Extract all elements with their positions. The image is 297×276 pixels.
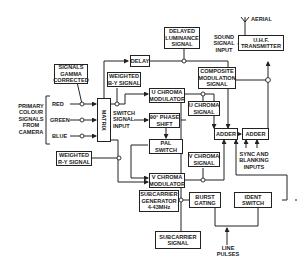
delay-box: DELAY [130,55,150,67]
pal-switch-box: PAL SWITCH [149,139,183,154]
label-line: SIGNAL [113,116,135,122]
label-line: PULSES [216,251,240,257]
u-chroma-signal-box: U CHROMA SIGNAL [188,101,220,116]
label-line: ADDER [246,131,266,137]
label-line: MODULATOR [149,181,185,187]
label-line: R-Y SIGNAL [58,159,90,165]
label-line: CAMERA [14,129,48,135]
label-line: SWITCH [242,200,264,206]
label-line: DELAY [131,58,149,64]
label-line: SWITCH [155,147,177,153]
green-label: GREEN [50,117,70,123]
label-line: MATRIX [101,109,107,130]
label-line: TRANSMITTER [241,43,281,49]
signals-gamma-corrected-box: SIGNALS GAMMA CORRECTED [54,64,88,84]
primary-colour-label: PRIMARY COLOUR SIGNALS FROM CAMERA [14,103,48,135]
burst-gating-box: BURST GATING [189,192,221,208]
label-line: INPUT [209,47,239,53]
label-line: SHIFT [156,121,172,127]
sound-signal-input-label: SOUND SIGNAL INPUT [209,34,239,53]
red-label: RED [52,101,64,107]
u-chroma-modulator-box: U CHROMA MODULATOR [149,88,185,103]
label-line: INPUTS [238,164,270,170]
matrix-box: MATRIX [97,98,111,142]
adder-1-box: ADDER [214,128,238,140]
label-line: BLANKING [238,157,270,163]
label-line: SIGNAL [209,40,239,46]
weighted-b-y-box: WEIGHTED B-Y SIGNAL [107,72,141,87]
label-line: SIGNAL [193,160,214,166]
subcarrier-generator-box: SUBCARRIER GENERATOR 4·43MHz [139,190,179,212]
blue-label: BLUE [52,133,67,139]
sync-blanking-label: SYNC AND BLANKING INPUTS [238,151,270,170]
label-line: SIGNAL [171,41,192,47]
label-line: GATING [194,200,215,206]
label-line: SIGNAL [167,240,188,246]
v-chroma-modulator-box: V CHROMA MODULATOR [149,173,185,188]
ident-switch-box: IDENT SWITCH [234,192,272,208]
switch-signal-input-label: SWITCH SIGNAL INPUT [113,110,135,129]
adder-2-box: ADDER [242,128,269,140]
aerial-label: AERIAL [251,16,272,22]
label-line: SIGNAL [193,109,214,115]
label-line: SIGNAL [206,81,227,87]
line-pulses-label: LINE PULSES [216,245,240,258]
label-line: CORRECTED [53,77,88,83]
delayed-luminance-box: DELAYED LUMINANCE SIGNAL [164,27,200,49]
label-line: B-Y SIGNAL [108,80,140,86]
label-line: 4·43MHz [148,204,171,210]
weighted-r-y-box: WEIGHTED R-Y SIGNAL [56,151,92,166]
subcarrier-signal-box: SUBCARRIER SIGNAL [155,231,201,249]
v-chroma-signal-box: V CHROMA SIGNAL [188,152,220,167]
label-line: ADDER [216,131,236,137]
composite-modulation-box: COMPOSITE MODULATION SIGNAL [198,67,236,89]
phase-shift-box: 90° PHASE SHIFT [149,113,180,128]
label-line: INPUT [113,123,135,129]
uhf-transmitter-box: U.H.F. TRANSMITTER [238,35,284,51]
label-line: MODULATOR [149,96,185,102]
block-diagram: .blk { position:absolute; border:1px sol… [0,0,297,276]
label-line: COLOUR [14,109,48,115]
